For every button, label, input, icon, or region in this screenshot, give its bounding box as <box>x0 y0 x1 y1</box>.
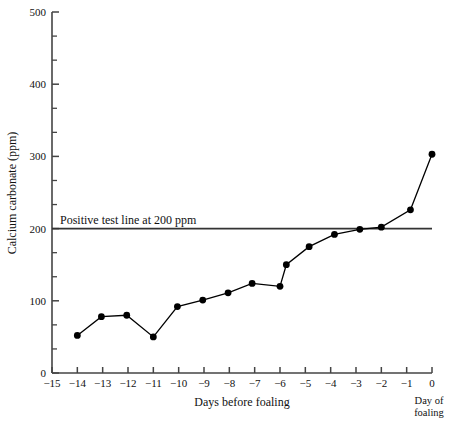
x-axis-tick-label: −13 <box>94 377 112 389</box>
data-point <box>150 334 157 341</box>
x-axis-major-ticks <box>52 367 432 373</box>
x-axis-tick-label: −8 <box>223 377 235 389</box>
data-point <box>283 261 290 268</box>
y-axis-major-ticks <box>52 12 59 373</box>
data-point <box>123 312 130 319</box>
y-axis-title: Calcium carbonate (ppm) <box>5 132 19 255</box>
x-axis-tick-label: −15 <box>43 377 61 389</box>
data-series-line <box>77 154 432 337</box>
x-axis-tick-label: −6 <box>274 377 286 389</box>
y-axis-tick-label: 400 <box>30 78 47 90</box>
y-axis-tick-label: 500 <box>30 6 47 18</box>
day-of-foaling-label-line2: foaling <box>414 407 444 418</box>
x-axis-tick-label: −9 <box>198 377 210 389</box>
data-point <box>277 283 284 290</box>
y-axis-tick-label: 300 <box>30 150 47 162</box>
day-of-foaling-label-line1: Day of <box>415 395 444 406</box>
calcium-carbonate-line-chart: 0100200300400500 −15−14−13−12−11−10−9−8−… <box>0 0 460 428</box>
x-axis-tick-label: −10 <box>170 377 188 389</box>
x-axis-tick-label: −14 <box>69 377 87 389</box>
y-axis-tick-labels: 0100200300400500 <box>30 6 47 379</box>
x-axis-tick-label: −11 <box>145 377 162 389</box>
data-point <box>199 297 206 304</box>
data-series-markers <box>74 151 435 340</box>
x-axis-tick-label: −1 <box>401 377 413 389</box>
data-point <box>356 226 363 233</box>
data-point <box>429 151 436 158</box>
x-axis-tick-labels: −15−14−13−12−11−10−9−8−7−6−5−4−3−2−10 <box>43 377 435 389</box>
x-axis-tick-label: −7 <box>249 377 261 389</box>
data-point <box>306 243 313 250</box>
x-axis-title: Days before foaling <box>194 395 289 409</box>
x-axis-tick-label: −12 <box>119 377 136 389</box>
x-axis-tick-label: −5 <box>299 377 311 389</box>
data-point <box>174 303 181 310</box>
data-point <box>331 231 338 238</box>
data-point <box>74 332 81 339</box>
x-axis-tick-label: −3 <box>350 377 362 389</box>
y-axis-tick-label: 100 <box>30 295 47 307</box>
x-axis-tick-label: −4 <box>325 377 337 389</box>
data-point <box>249 280 256 287</box>
x-axis-tick-label: −2 <box>375 377 387 389</box>
data-point <box>407 206 414 213</box>
chart-container: 0100200300400500 −15−14−13−12−11−10−9−8−… <box>0 0 460 428</box>
data-point <box>378 224 385 231</box>
data-point <box>225 289 232 296</box>
data-point <box>98 313 105 320</box>
x-axis-tick-label: 0 <box>429 377 435 389</box>
y-axis-tick-label: 200 <box>30 223 47 235</box>
reference-line-label: Positive test line at 200 ppm <box>60 213 197 227</box>
